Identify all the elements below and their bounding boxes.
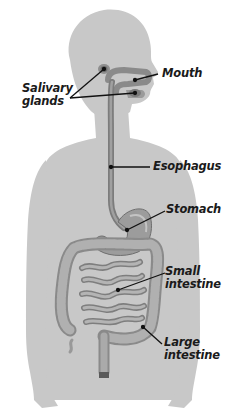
label-small-intestine: Small intestine bbox=[165, 265, 221, 291]
label-esophagus-text: Esophagus bbox=[153, 159, 221, 173]
label-large-intestine-line2: intestine bbox=[164, 349, 220, 362]
label-small-intestine-line2: intestine bbox=[165, 278, 221, 291]
label-mouth: Mouth bbox=[162, 67, 202, 80]
label-salivary-glands-line2: glands bbox=[22, 95, 73, 108]
label-esophagus: Esophagus bbox=[153, 160, 221, 173]
label-large-intestine: Large intestine bbox=[164, 336, 220, 362]
label-stomach: Stomach bbox=[166, 203, 221, 216]
label-stomach-text: Stomach bbox=[166, 202, 221, 216]
label-mouth-text: Mouth bbox=[162, 66, 202, 80]
digestive-system-diagram: Mouth Salivary glands Esophagus Stomach … bbox=[0, 0, 227, 411]
label-salivary-glands: Salivary glands bbox=[22, 82, 73, 108]
